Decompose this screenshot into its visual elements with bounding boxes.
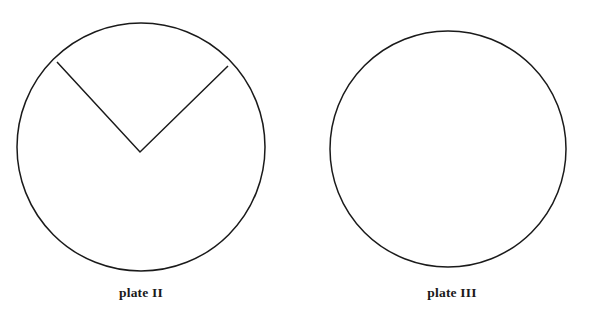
figure-background <box>0 0 593 320</box>
plates-figure <box>0 0 593 320</box>
plate-ii-label: plate II <box>119 285 163 301</box>
plate-iii-label: plate III <box>427 285 476 301</box>
